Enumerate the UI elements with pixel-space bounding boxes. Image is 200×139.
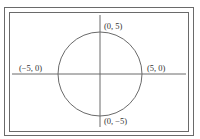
point-label-top: (0, 5) xyxy=(104,22,122,31)
point-label-right: (5, 0) xyxy=(147,64,165,73)
point-label-left: (−5, 0) xyxy=(19,64,42,73)
point-label-bottom: (0, −5) xyxy=(104,117,127,126)
